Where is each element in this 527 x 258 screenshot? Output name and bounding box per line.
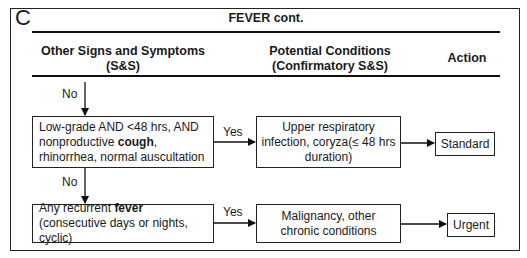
symptom-box-cough: Low-grade AND <48 hrs, AND nonproductive… <box>32 116 214 168</box>
action-box-urgent: Urgent <box>447 213 495 237</box>
no-label-1: No <box>62 87 77 101</box>
symptom-box-fever: Any recurrent fever (consecutive days or… <box>32 204 214 243</box>
yes-label-2: Yes <box>223 205 243 219</box>
symptom-text-fever: Any recurrent fever (consecutive days or… <box>39 201 207 246</box>
no-label-2: No <box>62 175 77 189</box>
action-box-standard: Standard <box>435 132 495 156</box>
yes-label-1: Yes <box>223 125 243 139</box>
condition-box-malignancy: Malignancy, other chronic conditions <box>256 204 401 243</box>
symptom-text-cough: Low-grade AND <48 hrs, AND nonproductive… <box>39 120 207 165</box>
condition-box-uri: Upper respiratory infection, coryza(≤ 48… <box>256 116 401 168</box>
